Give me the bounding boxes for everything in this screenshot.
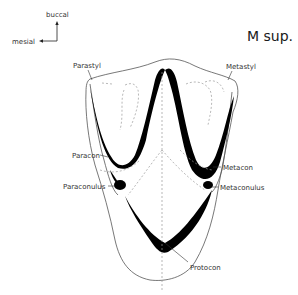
parastyl-leader [88,70,92,80]
diagram-title: M sup. [247,28,293,44]
protocon-crest [125,190,212,253]
metacon-label: Metacon [223,164,253,172]
buccal-arrow-icon [55,21,58,25]
paracon-crest [90,68,165,168]
paraconulus-label: Paraconulus [63,183,106,191]
groove-para-3 [120,90,124,130]
metastyl-label: Metastyl [226,63,256,71]
parastyl-label: Parastyl [73,62,101,70]
groove-para-2 [125,84,139,128]
metaconulus-cusp [203,181,213,189]
orientation-indicator: buccal mesial [12,11,69,46]
paracon-label: Paracon [72,152,100,160]
groove-meta-1 [186,82,212,125]
metaconulus-label: Metaconulus [220,184,265,192]
mesial-arrow-icon [39,39,43,42]
paracon-leader [100,155,108,157]
protocon-label: Protocon [190,264,221,272]
groove-meta-2 [205,81,224,92]
mesial-label: mesial [12,38,35,46]
buccal-label: buccal [46,11,69,19]
molar-diagram: buccal mesial M sup. [0,0,298,295]
groove-center-left [128,150,162,195]
groove-para-1 [102,83,112,84]
